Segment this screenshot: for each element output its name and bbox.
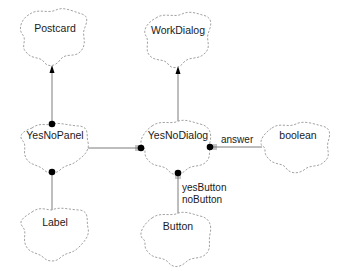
class-yesnopanel[interactable]: YesNoPanel — [21, 123, 88, 173]
class-name: YesNoPanel — [26, 129, 83, 141]
edge-yesnodialog-workdialog — [176, 66, 181, 121]
class-name: WorkDialog — [151, 24, 205, 36]
association-dot-icon — [207, 144, 214, 151]
class-name: Label — [42, 216, 68, 228]
class-name: YesNoDialog — [148, 129, 208, 141]
edge-label-yesbutton: yesButton — [182, 182, 226, 193]
association-dot-icon — [49, 169, 56, 176]
class-postcard[interactable]: Postcard — [20, 9, 86, 66]
edge-yesnopanel-yesnodialog — [85, 145, 141, 151]
class-name: Postcard — [34, 22, 76, 34]
class-workdialog[interactable]: WorkDialog — [145, 12, 211, 67]
class-button[interactable]: Button — [141, 212, 211, 266]
arrowhead-icon — [50, 65, 55, 73]
class-diagram: Postcard WorkDialog YesNoPanel YesNoDial… — [0, 0, 343, 271]
class-boolean[interactable]: boolean — [261, 122, 330, 172]
class-name: boolean — [279, 129, 317, 141]
class-label[interactable]: Label — [21, 208, 88, 261]
class-yesnodialog[interactable]: YesNoDialog — [141, 120, 211, 174]
association-dot-icon — [175, 170, 182, 177]
edge-yesnopanel-postcard — [50, 65, 55, 124]
edge-label-nobutton: noButton — [182, 194, 222, 205]
association-dot-icon — [138, 145, 145, 152]
class-name: Button — [163, 220, 194, 232]
edge-yesnodialog-button — [175, 173, 181, 214]
association-dot-icon — [49, 121, 56, 128]
edge-label-answer: answer — [221, 134, 254, 145]
